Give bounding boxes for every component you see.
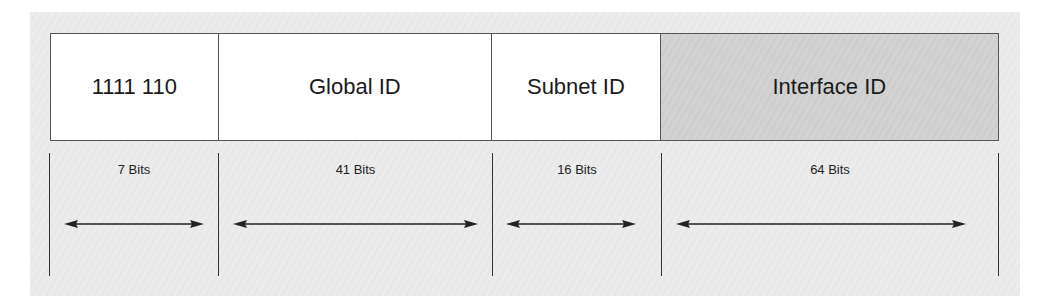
bits-label-subnet-id: 16 Bits <box>493 162 661 177</box>
double-arrow-icon <box>676 218 966 230</box>
field-subnet-id: Subnet ID <box>492 34 661 140</box>
field-global-id: Global ID <box>219 34 492 140</box>
address-field-box: 1111 110 Global ID Subnet ID Interface I… <box>50 33 999 141</box>
bits-label-global-id: 41 Bits <box>219 162 492 177</box>
double-arrow-icon <box>64 218 204 230</box>
double-arrow-icon <box>506 218 636 230</box>
field-subnet-id-label: Subnet ID <box>527 74 625 100</box>
bits-label-interface-id: 64 Bits <box>662 162 998 177</box>
field-prefix-label: 1111 110 <box>92 74 177 100</box>
double-arrow-icon <box>233 218 478 230</box>
field-interface-id: Interface ID <box>661 34 998 140</box>
bits-label-prefix: 7 Bits <box>50 162 218 177</box>
field-interface-id-label: Interface ID <box>772 74 886 100</box>
field-global-id-label: Global ID <box>309 74 401 100</box>
field-prefix: 1111 110 <box>51 34 219 140</box>
divider-line <box>998 153 999 276</box>
